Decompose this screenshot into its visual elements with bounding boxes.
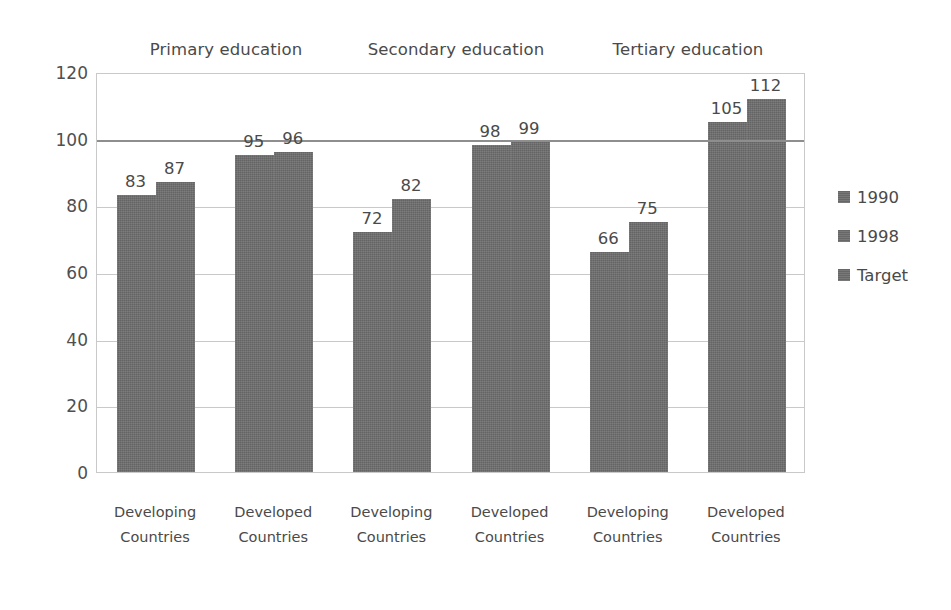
- bar-chart: Primary education Secondary education Te…: [0, 0, 951, 610]
- x-tick-label-line: Countries: [471, 525, 549, 550]
- bar: [590, 252, 629, 472]
- x-tick-label-line: Developing: [114, 500, 196, 525]
- legend-item-1990: 1990: [838, 186, 943, 208]
- bar: [274, 152, 313, 472]
- bar-value-label: 87: [164, 159, 185, 178]
- bar-value-label: 112: [750, 76, 782, 95]
- x-tick-label-line: Countries: [114, 525, 196, 550]
- bar: [392, 199, 431, 472]
- bar-value-label: 66: [598, 229, 619, 248]
- bar-value-label: 98: [480, 122, 501, 141]
- bar: [117, 195, 156, 472]
- bar: [708, 122, 747, 472]
- target-line: [97, 140, 804, 142]
- legend-swatch-icon: [838, 269, 850, 281]
- x-tick-label-line: Developed: [234, 500, 312, 525]
- x-tick-label: DevelopingCountries: [114, 500, 196, 550]
- legend-item-1998: 1998: [838, 225, 943, 247]
- x-tick-label-line: Countries: [234, 525, 312, 550]
- bar: [629, 222, 668, 472]
- legend-swatch-icon: [838, 191, 850, 203]
- legend-label: 1990: [857, 188, 899, 207]
- bar-value-label: 83: [125, 172, 146, 191]
- x-tick-label-line: Developed: [471, 500, 549, 525]
- legend-item-target: Target: [838, 264, 943, 286]
- bar: [472, 145, 511, 472]
- x-tick-label: DevelopedCountries: [707, 500, 785, 550]
- x-tick-label: DevelopedCountries: [234, 500, 312, 550]
- legend: 1990 1998 Target: [838, 186, 943, 303]
- bar: [353, 232, 392, 472]
- x-tick-label-line: Developed: [707, 500, 785, 525]
- bar-value-label: 72: [361, 209, 382, 228]
- x-tick-label-line: Countries: [707, 525, 785, 550]
- x-tick-label-line: Developing: [350, 500, 432, 525]
- bar-value-label: 105: [711, 99, 743, 118]
- bar-value-label: 99: [519, 119, 540, 138]
- bar: [156, 182, 195, 472]
- bar: [747, 99, 786, 472]
- x-tick-label-line: Countries: [350, 525, 432, 550]
- x-tick-label: DevelopingCountries: [350, 500, 432, 550]
- bar: [235, 155, 274, 472]
- legend-label: Target: [857, 266, 908, 285]
- bar-value-label: 95: [243, 132, 264, 151]
- legend-label: 1998: [857, 227, 899, 246]
- bar: [511, 142, 550, 472]
- bar-value-label: 75: [637, 199, 658, 218]
- x-tick-label-line: Developing: [587, 500, 669, 525]
- x-tick-label: DevelopedCountries: [471, 500, 549, 550]
- bar-value-label: 96: [282, 129, 303, 148]
- bar-value-label: 82: [400, 176, 421, 195]
- x-tick-label: DevelopingCountries: [587, 500, 669, 550]
- legend-swatch-icon: [838, 230, 850, 242]
- x-tick-label-line: Countries: [587, 525, 669, 550]
